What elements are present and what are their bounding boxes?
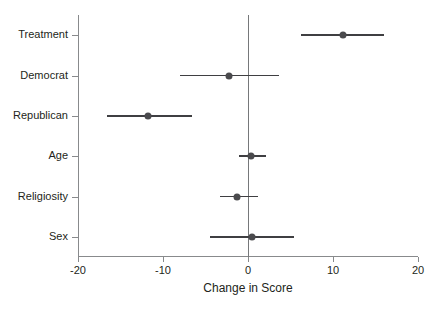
y-axis-spine xyxy=(78,15,79,257)
x-axis-tick xyxy=(248,257,249,262)
zero-reference-line xyxy=(248,15,249,257)
plot-area: TreatmentDemocratRepublicanAgeReligiosit… xyxy=(0,0,434,309)
y-axis-tick-label-democrat: Democrat xyxy=(20,70,68,81)
point-estimate-marker xyxy=(340,32,347,39)
y-axis-tick-label-religiosity: Religiosity xyxy=(18,191,68,202)
x-axis-tick-label: 20 xyxy=(412,264,424,276)
y-axis-tick xyxy=(72,116,78,117)
point-estimate-marker xyxy=(144,112,151,119)
x-axis-tick-label: 0 xyxy=(245,264,251,276)
x-axis-tick-label: -10 xyxy=(155,264,171,276)
x-axis-title: Change in Score xyxy=(78,281,418,295)
point-estimate-marker xyxy=(248,153,255,160)
y-axis-tick xyxy=(72,35,78,36)
y-axis-tick xyxy=(72,197,78,198)
x-axis-tick xyxy=(418,257,419,262)
x-axis-tick-label: 10 xyxy=(327,264,339,276)
y-axis-tick-label-age: Age xyxy=(48,150,68,161)
x-axis-tick xyxy=(333,257,334,262)
x-axis-tick xyxy=(163,257,164,262)
point-estimate-marker xyxy=(233,193,240,200)
coefficient-plot-figure: TreatmentDemocratRepublicanAgeReligiosit… xyxy=(0,0,434,309)
point-estimate-marker xyxy=(226,72,233,79)
y-axis-tick xyxy=(72,76,78,77)
x-axis-tick xyxy=(78,257,79,262)
y-axis-tick-label-sex: Sex xyxy=(49,231,68,242)
y-axis-tick-label-treatment: Treatment xyxy=(18,29,68,40)
y-axis-tick xyxy=(72,237,78,238)
y-axis-tick-label-republican: Republican xyxy=(13,110,68,121)
x-axis-tick-label: -20 xyxy=(70,264,86,276)
y-axis-tick xyxy=(72,156,78,157)
point-estimate-marker xyxy=(249,233,256,240)
